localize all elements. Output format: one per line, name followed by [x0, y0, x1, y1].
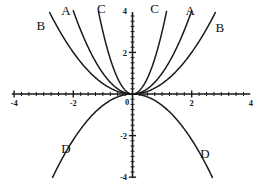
curve-d-right — [133, 94, 213, 177]
curve-label-a-left: A — [61, 3, 71, 18]
coordinate-plot: -4-2024-4-224 BACCABDD — [0, 0, 259, 185]
y-tick-label: -2 — [120, 131, 127, 141]
curve-labels-group: BACCABDD — [36, 1, 224, 161]
y-tick-label: -4 — [120, 172, 128, 182]
y-tick-label: 2 — [123, 48, 127, 58]
x-tick-label: 4 — [249, 98, 254, 108]
curve-label-d-left: D — [61, 141, 70, 156]
curve-a-right — [133, 11, 192, 94]
curve-label-c-right: C — [150, 1, 159, 16]
x-tick-label: 2 — [190, 98, 194, 108]
origin-label: 0 — [125, 97, 129, 107]
graph-figure: -4-2024-4-224 BACCABDD — [0, 0, 259, 185]
curve-label-a-right: A — [186, 3, 196, 18]
curve-label-b-right: B — [215, 20, 224, 35]
curve-label-b-left: B — [36, 18, 45, 33]
curve-c-left — [98, 11, 132, 94]
curve-label-d-right: D — [200, 146, 209, 161]
curve-label-c-left: C — [97, 1, 106, 16]
x-tick-label: -2 — [70, 98, 77, 108]
y-tick-label: 4 — [123, 6, 128, 16]
curve-c-right — [133, 11, 167, 94]
x-tick-label: -4 — [11, 98, 19, 108]
